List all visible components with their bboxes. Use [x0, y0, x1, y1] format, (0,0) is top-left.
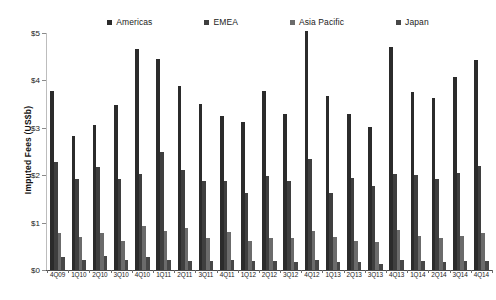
bar-japan	[125, 260, 129, 270]
x-tick-mark	[492, 270, 493, 273]
y-tick-mark	[42, 128, 46, 129]
legend-swatch-icon	[204, 20, 209, 25]
bar-group	[111, 33, 132, 270]
legend-item-japan: Japan	[396, 17, 429, 27]
bar-japan	[358, 262, 362, 270]
bar-group	[450, 33, 471, 270]
x-tick-label: 2Q13	[344, 271, 365, 285]
bar-japan	[485, 261, 489, 270]
bar-group	[471, 33, 492, 270]
x-tick-label: 1Q14	[407, 271, 428, 285]
bar-japan	[188, 261, 192, 270]
bar-japan	[210, 261, 214, 270]
y-tick-mark	[42, 175, 46, 176]
x-tick-label: 1Q10	[68, 271, 89, 285]
y-tick-mark	[42, 270, 46, 271]
bar-japan	[273, 261, 277, 270]
x-tick-label: 1Q13	[322, 271, 343, 285]
bar-japan	[421, 261, 425, 270]
bar-japan	[443, 262, 447, 270]
x-tick-label: 4Q09	[47, 271, 68, 285]
y-tick-mark	[42, 33, 46, 34]
bar-japan	[231, 260, 235, 270]
bar-group	[132, 33, 153, 270]
x-tick-label: 2Q12	[259, 271, 280, 285]
plot-area: $0$1$2$3$4$5	[46, 33, 492, 270]
x-tick-label: 2Q10	[89, 271, 110, 285]
bar-japan	[315, 260, 319, 270]
x-tick-label: 4Q14	[471, 271, 492, 285]
legend-item-emea: EMEA	[204, 17, 238, 27]
x-axis-ticks: 4Q091Q102Q103Q104Q101Q112Q113Q114Q111Q12…	[47, 271, 492, 285]
legend-label: Japan	[405, 17, 429, 27]
bar-group	[89, 33, 110, 270]
bar-group	[344, 33, 365, 270]
bar-group	[322, 33, 343, 270]
bar-group	[47, 33, 68, 270]
bar-group	[365, 33, 386, 270]
chart-container: AmericasEMEAAsia PacificJapan Imputed Fe…	[0, 0, 496, 300]
bar-japan	[337, 262, 341, 270]
bar-group	[386, 33, 407, 270]
y-tick-mark	[42, 223, 46, 224]
x-tick-label: 1Q11	[153, 271, 174, 285]
y-tick-label: $0	[16, 266, 40, 275]
legend-label: Asia Pacific	[299, 17, 344, 27]
chart-legend: AmericasEMEAAsia PacificJapan	[0, 14, 496, 30]
x-tick-label: 2Q14	[428, 271, 449, 285]
legend-item-americas: Americas	[107, 17, 152, 27]
x-tick-label: 3Q14	[450, 271, 471, 285]
bar-japan	[379, 264, 383, 270]
bar-group	[174, 33, 195, 270]
x-tick-label: 4Q12	[301, 271, 322, 285]
y-tick-label: $3	[16, 123, 40, 132]
x-tick-label: 4Q10	[132, 271, 153, 285]
bar-group	[259, 33, 280, 270]
bar-group	[68, 33, 89, 270]
bar-groups	[47, 33, 492, 270]
legend-item-asia-pacific: Asia Pacific	[290, 17, 344, 27]
bar-japan	[82, 260, 86, 270]
bar-group	[301, 33, 322, 270]
bar-japan	[464, 261, 468, 270]
bar-group	[428, 33, 449, 270]
y-tick-label: $5	[16, 29, 40, 38]
bar-japan	[61, 257, 65, 270]
bar-japan	[400, 260, 404, 270]
bar-group	[238, 33, 259, 270]
legend-label: EMEA	[213, 17, 238, 27]
x-tick-label: 4Q13	[386, 271, 407, 285]
x-tick-label: 3Q13	[365, 271, 386, 285]
y-tick-label: $2	[16, 171, 40, 180]
bar-group	[195, 33, 216, 270]
bar-japan	[104, 256, 108, 270]
bar-group	[153, 33, 174, 270]
bar-japan	[252, 261, 256, 270]
bar-japan	[294, 262, 298, 270]
bar-group	[407, 33, 428, 270]
bar-group	[217, 33, 238, 270]
x-tick-label: 3Q10	[111, 271, 132, 285]
y-axis-title: Imputed Fees (US$b)	[23, 70, 33, 230]
y-tick-label: $4	[16, 76, 40, 85]
y-tick-label: $1	[16, 218, 40, 227]
legend-swatch-icon	[107, 20, 112, 25]
x-tick-label: 3Q12	[280, 271, 301, 285]
x-tick-label: 1Q12	[238, 271, 259, 285]
bar-japan	[146, 257, 150, 270]
bar-japan	[167, 260, 171, 270]
x-tick-label: 2Q11	[174, 271, 195, 285]
legend-swatch-icon	[396, 20, 401, 25]
legend-label: Americas	[116, 17, 152, 27]
x-tick-label: 3Q11	[195, 271, 216, 285]
bar-group	[280, 33, 301, 270]
x-tick-label: 4Q11	[217, 271, 238, 285]
y-tick-mark	[42, 80, 46, 81]
legend-swatch-icon	[290, 20, 295, 25]
